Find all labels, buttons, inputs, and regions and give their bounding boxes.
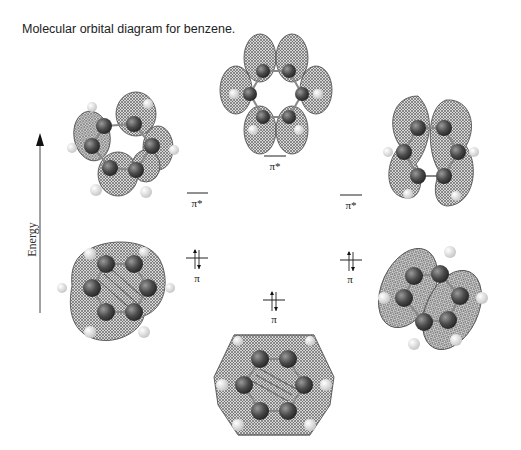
electron-pair-bottom xyxy=(263,291,285,311)
electron-pair-left xyxy=(186,249,208,269)
orbital-bonding-bottom xyxy=(214,335,334,435)
orbital-antibonding-left xyxy=(67,92,179,198)
level-label-pi-right: π xyxy=(335,273,365,285)
energy-levels xyxy=(186,156,362,311)
level-label-pi-star-left: π* xyxy=(182,197,212,209)
level-label-pi-bottom: π xyxy=(259,313,289,325)
level-label-pi-star-right: π* xyxy=(336,199,366,211)
level-label-pi-left: π xyxy=(182,272,212,284)
orbital-antibonding-right xyxy=(383,96,479,206)
arrow-up-icon xyxy=(36,133,44,146)
level-label-pi-star-top: π* xyxy=(260,160,290,172)
orbital-bonding-left xyxy=(57,242,175,341)
orbital-bonding-right xyxy=(367,239,494,359)
mo-diagram xyxy=(0,0,521,450)
energy-axis xyxy=(36,133,44,313)
orbital-antibonding-top xyxy=(220,34,332,154)
electron-pair-right xyxy=(340,251,362,271)
